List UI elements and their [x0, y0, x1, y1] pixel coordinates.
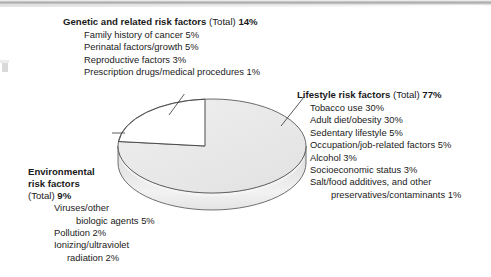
- lifestyle-item-1: Adult diet/obesity 30%: [310, 114, 461, 126]
- lifestyle-title-total: (Total): [390, 89, 422, 100]
- genetic-item-3: Prescription drugs/medical procedures 1%: [84, 66, 260, 78]
- environmental-item-1-line1: Pollution 2%: [54, 227, 155, 239]
- genetic-item-0: Family history of cancer 5%: [84, 29, 260, 41]
- lifestyle-item-0: Tobacco use 30%: [310, 102, 461, 114]
- lifestyle-item-6-line2: preservatives/contaminants 1%: [331, 189, 461, 201]
- environmental-total-word: (Total): [28, 190, 57, 201]
- lifestyle-item-3: Occupation/job-related factors 5%: [310, 139, 461, 151]
- lifestyle-item-5: Socioeconomic status 3%: [310, 164, 461, 176]
- environmental-title-line1: Environmental: [28, 166, 155, 178]
- genetic-title-percent: 14%: [238, 16, 257, 27]
- callout-genetic-risk-factors: Genetic and related risk factors (Total)…: [63, 16, 260, 79]
- callout-lifestyle-risk-factors: Lifestyle risk factors (Total) 77% Tobac…: [297, 89, 461, 201]
- environmental-title-total: (Total) 9%: [28, 190, 155, 203]
- genetic-item-list: Family history of cancer 5% Perinatal fa…: [84, 29, 260, 79]
- figure-canvas: Genetic and related risk factors (Total)…: [0, 0, 491, 277]
- lifestyle-item-list: Tobacco use 30% Adult diet/obesity 30% S…: [310, 102, 461, 201]
- lifestyle-item-4: Alcohol 3%: [310, 152, 461, 164]
- environmental-total-percent: 9%: [57, 190, 71, 201]
- environmental-item-2-line1: Ionizing/ultraviolet: [54, 239, 155, 251]
- pie-slice-genetic-exploded: [119, 99, 205, 146]
- lifestyle-title-percent: 77%: [422, 89, 441, 100]
- environmental-item-0-line1: Viruses/other: [54, 202, 155, 214]
- lifestyle-title-bold: Lifestyle risk factors: [297, 89, 390, 100]
- genetic-title-total: (Total): [206, 16, 238, 27]
- environmental-item-0-line2: biologic agents 5%: [76, 215, 155, 227]
- environmental-item-list: Viruses/other biologic agents 5% Polluti…: [54, 202, 155, 264]
- genetic-title: Genetic and related risk factors (Total)…: [63, 16, 260, 28]
- lifestyle-item-2: Sedentary lifestyle 5%: [310, 127, 461, 139]
- environmental-title-line2: risk factors: [28, 178, 155, 190]
- genetic-title-bold: Genetic and related risk factors: [63, 16, 206, 27]
- lifestyle-title: Lifestyle risk factors (Total) 77%: [297, 89, 461, 101]
- genetic-item-2: Reproductive factors 3%: [84, 54, 260, 66]
- environmental-item-2-line2: radiation 2%: [67, 252, 155, 264]
- scan-left-speck-artifact: [2, 63, 8, 72]
- scan-top-edge-artifact-secondary: [0, 5, 483, 7]
- lifestyle-item-6-line1: Salt/food additives, and other: [310, 176, 461, 188]
- genetic-item-1: Perinatal factors/growth 5%: [84, 41, 260, 53]
- callout-environmental-risk-factors: Environmental risk factors (Total) 9% Vi…: [28, 166, 155, 264]
